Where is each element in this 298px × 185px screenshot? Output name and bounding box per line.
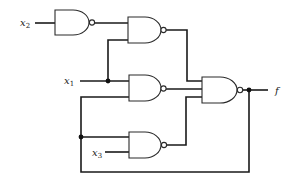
input-label-x2: x2 [20,17,30,30]
nand-circuit-diagram: x2 x1 x3 f [0,0,298,185]
nand-gate-g4 [202,77,243,103]
junction-f [247,88,252,93]
input-label-x3: x3 [92,147,102,160]
nand-gate-g2 [128,17,166,43]
wire-g5-to-g4 [167,97,202,145]
output-label-f: f [274,85,281,96]
junction-feedback [79,135,84,140]
input-label-x1: x1 [64,75,74,88]
junction-x1 [106,79,111,84]
nand-gate-g3 [129,75,166,101]
wire-x1-to-g2 [108,40,128,81]
nand-gate-g5 [129,132,167,158]
nand-gate-g1 [55,10,95,35]
wire-g2-to-g4 [166,30,202,81]
